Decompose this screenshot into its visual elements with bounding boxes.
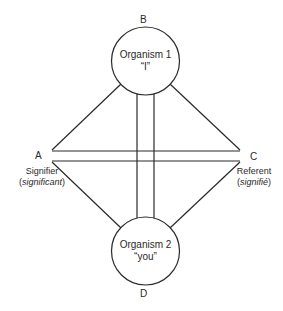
organism-1-name: Organism 1 [111, 49, 180, 61]
referent-text: Referent [232, 166, 276, 177]
signifie-text: signifié [240, 177, 268, 187]
edge-d-c [170, 162, 240, 228]
organism-2-pronoun: “you” [111, 251, 180, 263]
signifier-text: Signifier [16, 166, 68, 177]
referent-subtext: (signifié) [232, 177, 276, 188]
edge-b-a [52, 84, 121, 150]
organism-1-pronoun: “I” [111, 61, 180, 73]
vertex-a-label: A [35, 150, 42, 161]
organism-2-name: Organism 2 [111, 239, 180, 251]
paren-close: ) [268, 177, 271, 187]
edge-b-c [170, 84, 240, 150]
signifier-label: Signifier (significant) [16, 166, 68, 188]
organism-2-label: Organism 2 “you” [111, 239, 180, 263]
vertex-d-label: D [140, 288, 147, 299]
signifier-subtext: (significant) [16, 177, 68, 188]
vertex-b-label: B [140, 14, 147, 25]
vertex-c-label: C [250, 151, 257, 162]
paren-close: ) [62, 177, 65, 187]
organism-1-label: Organism 1 “I” [111, 49, 180, 73]
significant-text: significant [22, 177, 62, 187]
diagram-canvas [0, 0, 283, 311]
referent-label: Referent (signifié) [232, 166, 276, 188]
